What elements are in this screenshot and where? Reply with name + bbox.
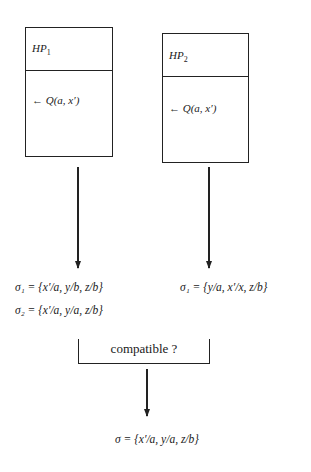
hp1-title: HP1 [32, 42, 51, 57]
hp2-goal: ← Q(a, x′) [169, 102, 216, 114]
hp2-title-base: HP [169, 49, 184, 61]
hp1-box: HP1 ← Q(a, x′) [25, 27, 113, 157]
compatibility-bracket: compatible ? [78, 339, 210, 364]
right-substitution-1: σ₁ = {y/a, x′/x, z/b} [180, 281, 267, 293]
final-substitution: σ = {x′/a, y/a, z/b} [115, 433, 199, 445]
compatibility-label: compatible ? [79, 341, 209, 357]
hp2-header: HP2 [163, 34, 248, 77]
hp2-title-sub: 2 [184, 55, 188, 64]
hp1-header: HP1 [26, 28, 112, 71]
hp1-down-arrow [77, 167, 79, 268]
hp2-title: HP2 [169, 49, 188, 64]
hp1-title-sub: 1 [47, 48, 51, 57]
hp2-down-arrow [208, 167, 210, 268]
hp2-box: HP2 ← Q(a, x′) [162, 33, 249, 163]
hp1-goal: ← Q(a, x′) [32, 94, 79, 106]
left-substitution-1: σ₁ = {x′/a, y/b, z/b} [15, 281, 103, 293]
merge-down-arrow [146, 369, 148, 416]
hp1-title-base: HP [32, 42, 47, 54]
left-substitution-2: σ₂ = {x′/a, y/a, z/b} [15, 304, 103, 316]
